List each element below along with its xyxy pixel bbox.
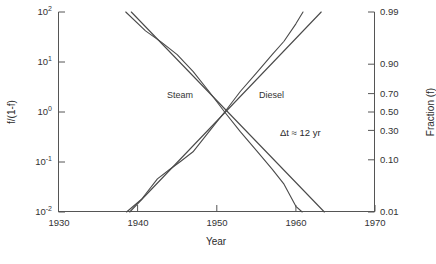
left-tick-base: 10 xyxy=(35,156,46,167)
steam-line xyxy=(126,12,302,212)
data-curves xyxy=(126,12,325,212)
left-axis-ticks xyxy=(59,12,66,212)
diesel-fit-line xyxy=(130,12,321,212)
axis-lines xyxy=(59,12,376,212)
left-tick-base: 10 xyxy=(35,206,46,217)
chart-figure: 102 101 100 10-1 10-2 f/(1-f) 0.99 0.90 … xyxy=(0,0,436,264)
right-axis-ticks xyxy=(368,12,375,212)
diesel-line xyxy=(127,12,303,212)
x-tick-label-1940: 1940 xyxy=(121,218,155,228)
right-tick-label-099: 0.99 xyxy=(380,7,399,17)
steam-fit-line xyxy=(131,12,324,212)
left-tick-exp: 2 xyxy=(48,5,52,12)
left-tick-exp: 1 xyxy=(48,55,52,62)
left-tick-label-1em2: 10-2 xyxy=(12,207,52,217)
y-axis-right-title: Fraction (f) xyxy=(426,77,436,147)
right-tick-label-090: 0.90 xyxy=(380,59,399,69)
right-tick-label-030: 0.30 xyxy=(380,126,399,136)
right-tick-label-010: 0.10 xyxy=(380,155,399,165)
x-tick-label-1970: 1970 xyxy=(358,218,392,228)
left-tick-exp: -1 xyxy=(46,155,52,162)
steam-curve-label: Steam xyxy=(167,91,193,100)
left-tick-exp: 0 xyxy=(48,105,52,112)
left-tick-base: 10 xyxy=(38,56,49,67)
left-tick-exp: -2 xyxy=(46,205,52,212)
x-axis-title: Year xyxy=(186,237,246,247)
x-tick-label-1960: 1960 xyxy=(279,218,313,228)
left-tick-base: 10 xyxy=(38,106,49,117)
left-tick-label-1e0: 100 xyxy=(12,107,52,117)
right-tick-label-070: 0.70 xyxy=(380,89,399,99)
left-tick-label-1e1: 101 xyxy=(12,57,52,67)
x-axis-ticks xyxy=(59,205,376,212)
delta-t-annotation: Δt ≈ 12 yr xyxy=(280,128,321,138)
x-tick-label-1930: 1930 xyxy=(42,218,76,228)
left-tick-label-1em1: 10-1 xyxy=(12,157,52,167)
x-tick-label-1950: 1950 xyxy=(200,218,234,228)
left-tick-label-1e2: 102 xyxy=(12,7,52,17)
y-axis-left-title: f/(1-f) xyxy=(7,82,17,142)
diesel-curve-label: Diesel xyxy=(259,91,284,100)
right-tick-label-001: 0.01 xyxy=(380,207,399,217)
right-tick-label-050: 0.50 xyxy=(380,107,399,117)
left-tick-base: 10 xyxy=(38,6,49,17)
